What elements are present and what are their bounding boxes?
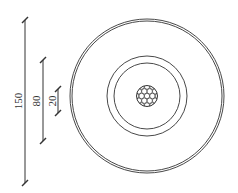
stranded-conductor xyxy=(134,84,161,108)
dimension-label-150: 150 xyxy=(12,92,24,109)
dimension-80: 80 xyxy=(30,57,46,144)
cable-cross-section-diagram: 150 80 20 xyxy=(0,0,238,193)
dimension-label-20: 20 xyxy=(46,95,58,107)
dimension-label-80: 80 xyxy=(30,95,42,107)
dimension-150: 150 xyxy=(12,17,28,186)
strand-pattern-icon xyxy=(134,84,161,108)
dimension-20: 20 xyxy=(46,86,61,116)
outer-jacket xyxy=(70,19,224,173)
insulation-layer xyxy=(107,56,187,136)
